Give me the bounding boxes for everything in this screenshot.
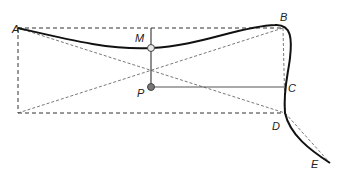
point-p-marker (148, 84, 155, 91)
label-p: P (137, 87, 145, 99)
label-e: E (311, 158, 319, 170)
label-m: M (135, 32, 145, 44)
label-d: D (272, 120, 280, 132)
label-c: C (288, 82, 296, 94)
diagonals (18, 28, 330, 163)
diagram: A B C D E M P (0, 0, 339, 179)
label-b: B (280, 11, 287, 23)
label-a: A (11, 23, 19, 35)
point-m-marker (148, 45, 155, 52)
